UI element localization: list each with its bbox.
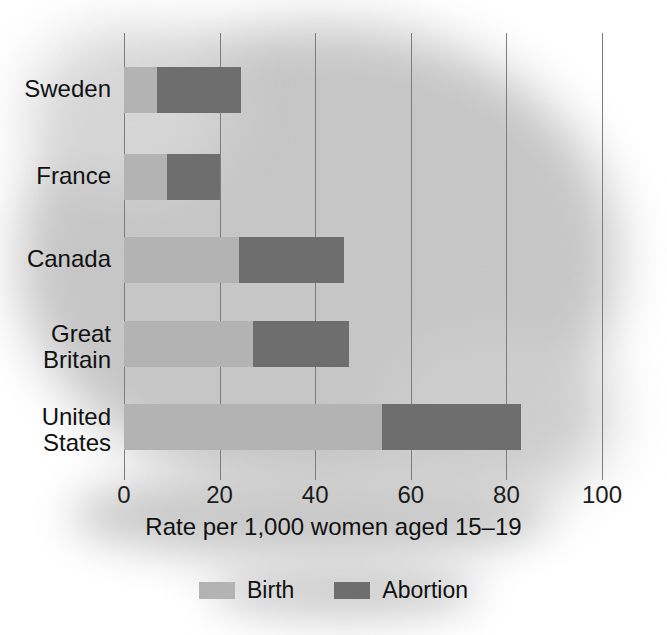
bar-segment-birth bbox=[124, 404, 382, 450]
x-tick-label-20: 20 bbox=[206, 481, 233, 509]
category-label-canada: Canada bbox=[27, 246, 111, 272]
bar-segment-abortion bbox=[157, 67, 241, 113]
legend-swatch-abortion bbox=[334, 582, 370, 599]
bar-segment-birth bbox=[124, 67, 157, 113]
figure: 020406080100 SwedenFranceCanadaGreat Bri… bbox=[0, 0, 667, 635]
x-axis-title: Rate per 1,000 women aged 15–19 bbox=[0, 513, 667, 541]
bar-segment-abortion bbox=[239, 237, 344, 283]
bar-segment-birth bbox=[124, 321, 253, 367]
legend-label-birth: Birth bbox=[247, 577, 294, 604]
bar-segment-birth bbox=[124, 237, 239, 283]
category-label-france: France bbox=[36, 163, 111, 189]
category-label-sweden: Sweden bbox=[24, 76, 111, 102]
legend-swatch-birth bbox=[199, 582, 235, 599]
bar-segment-abortion bbox=[167, 154, 220, 200]
x-tick-label-60: 60 bbox=[397, 481, 424, 509]
category-label-united-states: United States bbox=[42, 404, 111, 456]
legend-item-abortion[interactable]: Abortion bbox=[334, 577, 468, 604]
bar-segment-birth bbox=[124, 154, 167, 200]
bar-segment-abortion bbox=[253, 321, 349, 367]
legend-item-birth[interactable]: Birth bbox=[199, 577, 294, 604]
chart-legend: BirthAbortion bbox=[0, 577, 667, 604]
x-tick-label-100: 100 bbox=[582, 481, 622, 509]
x-tick-label-40: 40 bbox=[302, 481, 329, 509]
x-tick-label-80: 80 bbox=[493, 481, 520, 509]
legend-label-abortion: Abortion bbox=[382, 577, 468, 604]
bar-segment-abortion bbox=[382, 404, 521, 450]
x-tick-label-0: 0 bbox=[117, 481, 130, 509]
category-label-great-britain: Great Britain bbox=[43, 321, 111, 373]
